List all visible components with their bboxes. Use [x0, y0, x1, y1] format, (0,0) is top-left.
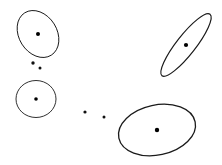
- cluster-center-dot-top-left: [36, 32, 40, 36]
- figure-canvas: [0, 0, 222, 165]
- cluster-center-dot-top-right: [184, 43, 188, 47]
- outlier-dot-middle-b: [103, 116, 106, 119]
- ellipse-scatter-figure: [0, 0, 222, 165]
- outlier-dot-middle-a: [83, 110, 86, 113]
- outlier-dot-upper-left-b: [39, 67, 42, 70]
- cluster-center-dot-bottom-right: [155, 128, 159, 132]
- cluster-center-dot-left-lower: [34, 97, 38, 101]
- outlier-dot-upper-left-a: [31, 61, 34, 64]
